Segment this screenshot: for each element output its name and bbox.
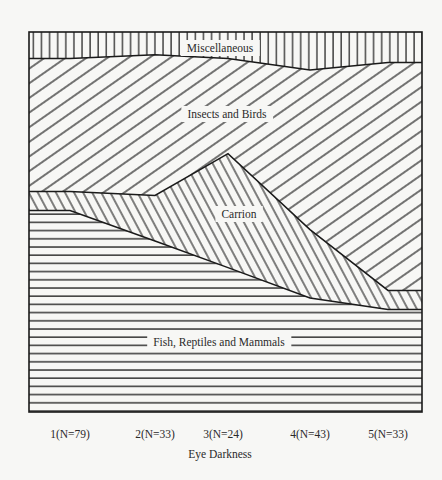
series-label-text: Carrion (221, 208, 256, 220)
series-label-insects-and-birds: Insects and Birds (181, 106, 273, 122)
x-tick-label: 5(N=33) (368, 428, 408, 441)
series-label-carrion: Carrion (215, 206, 262, 222)
stacked-area-chart: Fish, Reptiles and MammalsCarrionInsects… (0, 0, 442, 480)
series-label-text: Miscellaneous (187, 42, 254, 54)
x-tick-label: 3(N=24) (203, 428, 243, 441)
series-label-text: Fish, Reptiles and Mammals (153, 336, 285, 349)
x-axis-label: Eye Darkness (188, 448, 252, 461)
x-tick-label: 1(N=79) (50, 428, 90, 441)
series-label-miscellaneous: Miscellaneous (181, 40, 260, 56)
x-tick-label: 2(N=33) (135, 428, 175, 441)
x-tick-labels: 1(N=79)2(N=33)3(N=24)4(N=43)5(N=33) (50, 428, 408, 441)
series-label-fish-reptiles-and-mammals: Fish, Reptiles and Mammals (147, 334, 291, 351)
series-label-text: Insects and Birds (187, 108, 267, 120)
x-tick-label: 4(N=43) (290, 428, 330, 441)
